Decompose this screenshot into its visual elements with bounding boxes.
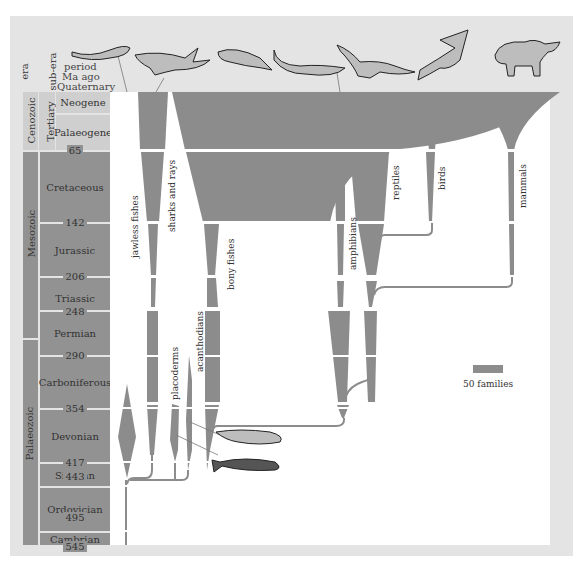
spindle-placoderms: [170, 404, 179, 462]
acanthodian-fish-icon: [212, 459, 279, 472]
legend-swatch: [473, 365, 503, 373]
lamprey-icon: [72, 46, 130, 59]
bony-fish-icon: [218, 50, 272, 70]
label-bony-fishes: bony fishes: [226, 239, 236, 290]
spindle-amphibians: [333, 92, 346, 150]
legend-label: 50 families: [463, 379, 513, 389]
dinosaur-icon: [337, 45, 415, 78]
label-amphibians: amphibians: [348, 217, 358, 270]
label-sharks-and-rays: sharks and rays: [167, 160, 177, 232]
shark-icon: [135, 48, 210, 75]
label-acanthodians: acanthodians: [195, 311, 205, 372]
spindle-jawless-fishes: [125, 480, 127, 545]
bird-icon: [418, 30, 468, 80]
label-jawless-fishes: jawless fishes: [130, 195, 140, 258]
spindle-acanthodians: [186, 355, 192, 470]
elephant-icon: [495, 40, 560, 76]
label-birds: birds: [437, 167, 447, 190]
label-reptiles: reptiles: [391, 165, 401, 200]
spindle-sharks-and-rays: [138, 92, 168, 150]
placoderm-icon: [216, 430, 281, 444]
label-placoderms: placoderms: [170, 347, 180, 400]
label-mammals: mammals: [518, 164, 528, 208]
spindle-reptiles: [357, 92, 384, 150]
salamander-icon: [274, 50, 345, 75]
spindle-diagram: [0, 0, 583, 571]
